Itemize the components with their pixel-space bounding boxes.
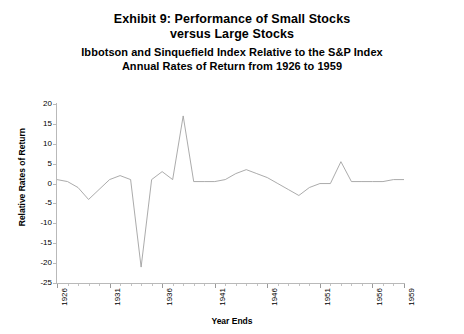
x-axis-tick-mark [78,284,79,286]
chart-subtitle-line-2: Annual Rates of Return from 1926 to 1959 [0,59,464,73]
x-axis-tick-mark [162,284,163,288]
chart-subtitle-line-1: Ibbotson and Sinquefield Index Relative … [0,45,464,59]
x-axis-tick-label: 1946 [271,288,279,306]
x-axis-tick-mark [204,284,205,286]
x-axis-tick-label: 1926 [61,288,69,306]
x-axis-tick-mark [110,284,111,288]
x-axis-tick-label: 1931 [114,288,122,306]
x-axis-tick-mark [131,284,132,286]
x-axis-tick-mark [330,284,331,286]
y-axis-tick-label: 15 [10,120,52,128]
y-axis-tick-label: -15 [10,239,52,247]
x-axis-tick-mark [120,284,121,286]
y-axis-tick-label: 20 [10,100,52,108]
x-axis-line [56,283,405,284]
x-axis-tick-mark [183,284,184,286]
x-axis-tick-mark [299,284,300,286]
x-axis-tick-label: 1936 [166,288,174,306]
plot-area [57,104,404,283]
x-axis-tick-mark [341,284,342,286]
x-axis-tick-label: 1959 [408,288,416,306]
x-axis-tick-mark [257,284,258,286]
x-axis-tick-mark [278,284,279,286]
x-axis-tick-mark [215,284,216,288]
x-axis-tick-mark [288,284,289,286]
y-axis-title: Relative Rates of Return [17,128,27,226]
chart-title-block: Exhibit 9: Performance of Small Stocks v… [0,12,464,73]
x-axis-tick-mark [351,284,352,286]
x-axis-tick-mark [99,284,100,286]
x-axis-title: Year Ends [0,316,464,326]
chart-title-line-1: Exhibit 9: Performance of Small Stocks [0,12,464,27]
chart-figure: Exhibit 9: Performance of Small Stocks v… [0,0,464,334]
x-axis-tick-mark [68,284,69,286]
x-axis-tick-mark [89,284,90,286]
x-axis-tick-mark [320,284,321,288]
series-line-path [57,116,404,267]
y-axis-tick-label: -20 [10,259,52,267]
x-axis-tick-label: 1951 [324,288,332,306]
y-axis-tick-label: -25 [10,279,52,287]
x-axis-tick-mark [225,284,226,286]
x-axis-tick-mark [404,284,405,288]
x-axis-tick-mark [246,284,247,286]
x-axis-tick-mark [362,284,363,286]
chart-title-line-2: versus Large Stocks [0,27,464,42]
x-axis-tick-mark [372,284,373,288]
series-plot [57,104,404,283]
x-axis-tick-mark [141,284,142,286]
x-axis-tick-mark [152,284,153,286]
x-axis-tick-label: 1941 [219,288,227,306]
x-axis-tick-mark [194,284,195,286]
x-axis-tick-mark [393,284,394,286]
y-axis-tick-labels: 20151050-5-10-15-20-25 [8,0,52,334]
x-axis-tick-mark [267,284,268,288]
x-axis-tick-mark [383,284,384,286]
x-axis-tick-mark [57,284,58,288]
x-axis-tick-mark [236,284,237,286]
x-axis-tick-mark [309,284,310,286]
x-axis-tick-label: 1956 [376,288,384,306]
x-axis-tick-mark [173,284,174,286]
